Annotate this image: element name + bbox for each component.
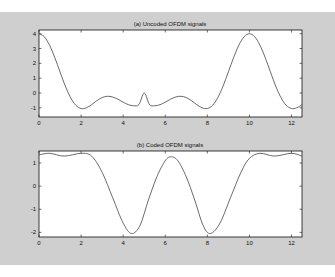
y-tick-label: -1	[31, 105, 37, 111]
x-tick-label: 10	[246, 240, 253, 246]
y-tick-label: 0	[33, 183, 37, 189]
x-tick-label: 6	[164, 120, 168, 126]
x-tick-label: 8	[206, 120, 210, 126]
x-tick-label: 4	[121, 120, 125, 126]
subplot-title: (b) Coded OFDM signals	[137, 142, 203, 148]
plot-area	[39, 151, 302, 237]
plot-area	[39, 30, 302, 117]
subplot-title: (a) Uncoded OFDM signals	[134, 21, 207, 27]
x-tick-label: 12	[288, 120, 295, 126]
y-tick-label: 0	[33, 90, 37, 96]
x-tick-label: 6	[164, 240, 168, 246]
x-tick-label: 8	[206, 240, 210, 246]
y-tick-label: 4	[33, 31, 37, 37]
x-tick-label: 2	[79, 240, 83, 246]
x-tick-label: 12	[288, 240, 295, 246]
subplot-coded: (b) Coded OFDM signals 024681012-2-101	[31, 142, 302, 246]
y-tick-label: -1	[31, 206, 37, 212]
x-tick-label: 0	[37, 240, 41, 246]
x-tick-label: 4	[121, 240, 125, 246]
y-tick-label: 1	[33, 160, 37, 166]
chart-canvas: (a) Uncoded OFDM signals 024681012-10123…	[0, 0, 335, 277]
y-tick-label: 1	[33, 75, 37, 81]
x-tick-label: 10	[246, 120, 253, 126]
y-tick-label: -2	[31, 229, 37, 235]
subplot-uncoded: (a) Uncoded OFDM signals 024681012-10123…	[31, 21, 302, 126]
x-tick-label: 0	[37, 120, 41, 126]
x-tick-label: 2	[79, 120, 83, 126]
y-tick-label: 3	[33, 46, 37, 52]
y-tick-label: 2	[33, 60, 37, 66]
